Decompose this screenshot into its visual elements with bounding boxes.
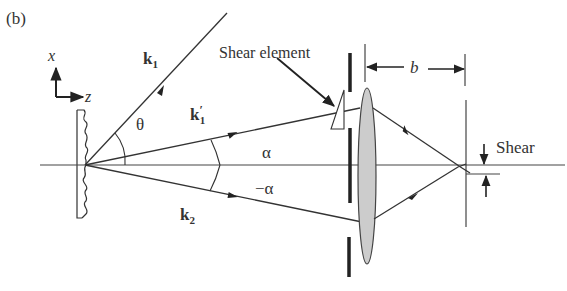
beam-k1-prime [85, 108, 360, 165]
shear-element-pointer [277, 58, 334, 106]
k2-label: k2 [180, 205, 195, 226]
theta-label: θ [136, 115, 144, 134]
shearing-interferometer-diagram: (b) x z k1 k′1 k2 θ α −α Shear element b [0, 0, 567, 291]
beam-after-lens-bottom [374, 167, 458, 219]
alpha-arc [211, 140, 220, 165]
shear-element-label: Shear element [219, 44, 311, 61]
neg-alpha-label: −α [255, 179, 274, 198]
alpha-label: α [262, 143, 271, 162]
theta-arc [115, 133, 125, 165]
k1-label: k1 [143, 49, 158, 70]
x-axis-label: x [47, 47, 55, 64]
z-axis-label: z [84, 88, 92, 105]
coordinate-axes-icon [56, 68, 83, 97]
neg-alpha-arc [210, 165, 220, 191]
beam-after-lens-top [373, 108, 462, 168]
k1-prime-label: k′1 [190, 103, 205, 126]
arrow-icon [228, 131, 239, 139]
shear-label: Shear [496, 138, 535, 157]
shear-element-wedge [331, 90, 344, 129]
lens [358, 88, 376, 264]
beam-k2 [85, 165, 362, 222]
panel-label: (b) [6, 9, 26, 28]
distance-b-label: b [410, 58, 419, 77]
beam-k1 [85, 13, 227, 165]
